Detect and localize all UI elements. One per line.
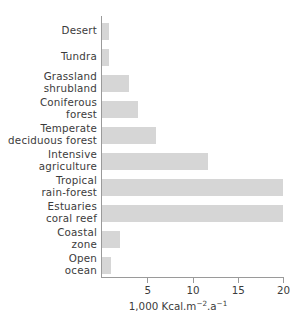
bar bbox=[102, 75, 129, 92]
x-axis-title-main: 1,000 Kcal.m bbox=[129, 300, 197, 312]
bar bbox=[102, 153, 208, 170]
category-label: Coastal zone bbox=[0, 227, 97, 250]
bar bbox=[102, 49, 109, 66]
plot-area: Desert Tundra Grassland shrubland Conife… bbox=[0, 0, 302, 325]
category-label: Grassland shrubland bbox=[0, 71, 97, 94]
category-label: Estuaries coral reef bbox=[0, 201, 97, 224]
chart-row: Open ocean bbox=[0, 252, 302, 278]
bar-chart-figure: Desert Tundra Grassland shrubland Conife… bbox=[0, 0, 302, 325]
x-axis-tick-label: 20 bbox=[269, 284, 299, 296]
chart-row: Coastal zone bbox=[0, 226, 302, 252]
chart-row: Desert bbox=[0, 18, 302, 44]
y-axis-line bbox=[101, 16, 102, 277]
x-axis-tick-label: 10 bbox=[178, 284, 208, 296]
category-label: Intensive agriculture bbox=[0, 149, 97, 172]
x-axis-title-exponent-2: −1 bbox=[217, 299, 228, 308]
bar bbox=[102, 257, 111, 274]
chart-row: Coniferous forest bbox=[0, 96, 302, 122]
x-axis-tick-label: 15 bbox=[223, 284, 253, 296]
chart-row: Temperate deciduous forest bbox=[0, 122, 302, 148]
x-axis-tick bbox=[238, 278, 239, 283]
chart-row: Estuaries coral reef bbox=[0, 200, 302, 226]
bar bbox=[102, 231, 120, 248]
bar bbox=[102, 101, 138, 118]
x-axis-tick bbox=[147, 278, 148, 283]
bar bbox=[102, 205, 283, 222]
x-axis-tick-label: 5 bbox=[133, 284, 163, 296]
category-label: Desert bbox=[0, 25, 97, 37]
chart-row: Tundra bbox=[0, 44, 302, 70]
category-label: Tundra bbox=[0, 51, 97, 63]
bar bbox=[102, 179, 283, 196]
chart-row: Tropical rain-forest bbox=[0, 174, 302, 200]
category-label: Temperate deciduous forest bbox=[0, 123, 97, 146]
category-label: Coniferous forest bbox=[0, 97, 97, 120]
category-label: Tropical rain-forest bbox=[0, 175, 97, 198]
chart-row: Grassland shrubland bbox=[0, 70, 302, 96]
bar bbox=[102, 127, 156, 144]
x-axis-tick bbox=[283, 278, 284, 283]
chart-row: Intensive agriculture bbox=[0, 148, 302, 174]
x-axis-title-mid: .a bbox=[207, 300, 217, 312]
x-axis-tick bbox=[193, 278, 194, 283]
x-axis-title: 1,000 Kcal.m−2.a−1 bbox=[0, 300, 302, 312]
bar bbox=[102, 23, 109, 40]
x-axis-title-exponent-1: −2 bbox=[196, 299, 207, 308]
category-label: Open ocean bbox=[0, 253, 97, 276]
